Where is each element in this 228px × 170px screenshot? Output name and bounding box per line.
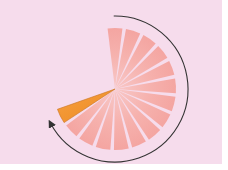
wedge-group	[57, 28, 176, 150]
diagram-canvas	[0, 0, 222, 164]
rotation-fan-diagram	[0, 0, 228, 170]
